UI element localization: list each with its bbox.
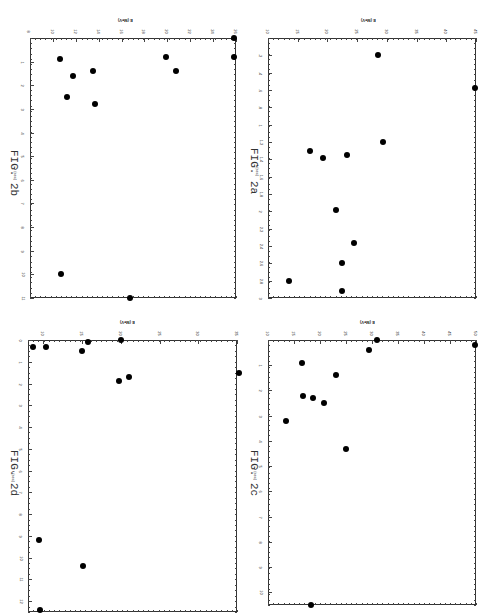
minor-tick — [471, 340, 472, 342]
minor-tick — [268, 594, 270, 595]
minor-tick — [403, 340, 404, 342]
minor-tick — [268, 340, 270, 341]
minor-tick — [273, 603, 274, 605]
minor-tick — [474, 425, 476, 426]
minor-tick — [450, 340, 451, 342]
minor-tick — [289, 340, 290, 342]
data-point — [472, 342, 478, 348]
tick-mark — [268, 517, 272, 518]
minor-tick — [403, 603, 404, 605]
minor-tick — [268, 446, 270, 447]
e-tick-label: 25 — [343, 331, 348, 335]
minor-tick — [362, 340, 363, 342]
minor-tick — [268, 367, 270, 368]
minor-tick — [474, 520, 476, 521]
data-point — [310, 395, 316, 401]
minor-tick — [455, 603, 456, 605]
minor-tick — [393, 603, 394, 605]
minor-tick — [268, 541, 270, 542]
minor-tick — [268, 351, 270, 352]
minor-tick — [268, 589, 270, 590]
minor-tick — [294, 603, 295, 605]
t-tick-label: 3 — [258, 415, 263, 417]
minor-tick — [268, 531, 270, 532]
minor-tick — [268, 361, 270, 362]
minor-tick — [268, 515, 270, 516]
minor-tick — [273, 340, 274, 342]
minor-tick — [424, 603, 425, 605]
minor-tick — [372, 603, 373, 605]
minor-tick — [336, 340, 337, 342]
minor-tick — [268, 557, 270, 558]
minor-tick — [268, 600, 270, 601]
minor-tick — [268, 473, 270, 474]
minor-tick — [429, 603, 430, 605]
t-tick-label: 7 — [258, 516, 263, 518]
minor-tick — [474, 451, 476, 452]
minor-tick — [455, 340, 456, 342]
e-axis-title: E (MeV) — [360, 320, 375, 325]
minor-tick — [268, 552, 270, 553]
minor-tick — [474, 367, 476, 368]
minor-tick — [268, 563, 270, 564]
minor-tick — [372, 340, 373, 342]
minor-tick — [377, 603, 378, 605]
data-point — [283, 418, 289, 424]
minor-tick — [268, 345, 270, 346]
minor-tick — [466, 603, 467, 605]
t-tick-label: 2 — [258, 390, 263, 392]
minor-tick — [294, 340, 295, 342]
minor-tick — [315, 340, 316, 342]
minor-tick — [268, 409, 270, 410]
minor-tick — [474, 435, 476, 436]
e-tick-label: 15 — [291, 331, 296, 335]
minor-tick — [388, 603, 389, 605]
minor-tick — [474, 393, 476, 394]
e-tick-label: 20 — [317, 331, 322, 335]
minor-tick — [414, 340, 415, 342]
minor-tick — [268, 356, 270, 357]
minor-tick — [440, 603, 441, 605]
minor-tick — [474, 382, 476, 383]
data-point — [308, 602, 314, 608]
minor-tick — [341, 340, 342, 342]
e-tick-label: 40 — [421, 331, 426, 335]
minor-tick — [450, 603, 451, 605]
minor-tick — [304, 603, 305, 605]
minor-tick — [466, 340, 467, 342]
minor-tick — [474, 531, 476, 532]
minor-tick — [268, 435, 270, 436]
minor-tick — [474, 457, 476, 458]
minor-tick — [330, 340, 331, 342]
tick-mark — [268, 592, 272, 593]
minor-tick — [268, 494, 270, 495]
minor-tick — [474, 563, 476, 564]
minor-tick — [268, 414, 270, 415]
e-tick-label: 10 — [265, 331, 270, 335]
panel-fig-2c: E (MeV) t (sec) FIG. 2c 1015202530354045… — [0, 0, 480, 615]
minor-tick — [474, 526, 476, 527]
minor-tick — [382, 603, 383, 605]
e-tick-label: 50 — [473, 331, 478, 335]
minor-tick — [268, 420, 270, 421]
minor-tick — [474, 377, 476, 378]
minor-tick — [346, 603, 347, 605]
minor-tick — [268, 488, 270, 489]
minor-tick — [304, 340, 305, 342]
minor-tick — [474, 351, 476, 352]
minor-tick — [474, 499, 476, 500]
minor-tick — [476, 603, 477, 605]
minor-tick — [474, 584, 476, 585]
minor-tick — [429, 340, 430, 342]
minor-tick — [408, 603, 409, 605]
minor-tick — [474, 504, 476, 505]
e-tick-label: 45 — [447, 331, 452, 335]
minor-tick — [474, 340, 476, 341]
minor-tick — [474, 462, 476, 463]
minor-tick — [367, 340, 368, 342]
minor-tick — [474, 547, 476, 548]
minor-tick — [268, 526, 270, 527]
minor-tick — [474, 478, 476, 479]
minor-tick — [474, 515, 476, 516]
minor-tick — [419, 603, 420, 605]
